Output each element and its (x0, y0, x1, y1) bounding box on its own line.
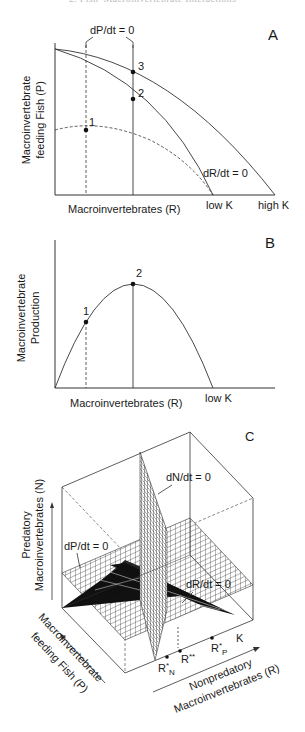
r-double-star-stars: ** (189, 652, 195, 661)
panel-c: C R*N R** R*P (20, 429, 281, 715)
panel-b: B 1 2 Macroinvertebrate Production Macro… (15, 234, 275, 409)
z-axis-arrowhead (50, 502, 54, 508)
figure: A dP/dt = 0 3 2 1 dR/dt = 0 Macroinverte… (0, 0, 305, 732)
r-axis-arrowhead (253, 647, 260, 652)
panel-a-label-3: 3 (138, 60, 144, 72)
r-star-n-point (165, 655, 169, 659)
panel-a-low-k: low K (206, 199, 234, 211)
panel-b-label-2: 2 (136, 267, 142, 279)
c-dpdt-label: dP/dt = 0 (64, 540, 108, 552)
panel-c-letter: C (245, 429, 254, 444)
r-star-p-label: R*P (211, 641, 227, 657)
r-star-p-point (210, 636, 214, 640)
panel-b-production-curve (55, 284, 213, 388)
panel-b-point-1 (84, 320, 89, 325)
c-zlabel-1: Predatory (20, 511, 32, 559)
r-double-star-r: R (181, 653, 189, 665)
panel-a-ylabel-1: Macroinvertebrate (20, 76, 32, 165)
panel-b-letter: B (265, 234, 275, 251)
panel-a-drdt-label: dR/dt = 0 (203, 167, 248, 179)
c-drdt-label: dR/dt = 0 (186, 578, 231, 590)
box-top-back (62, 432, 253, 498)
c-zlabel-2: Macroinvertebrates (N) (33, 479, 45, 591)
panel-b-point-2 (131, 282, 136, 287)
r-double-star-label: R** (181, 652, 195, 665)
panel-a-label-2: 2 (138, 87, 144, 99)
r-star-p-sub: P (222, 648, 227, 657)
panel-a-dpdt-label: dP/dt = 0 (90, 24, 134, 36)
panel-a-dashed-curve (55, 126, 213, 195)
panel-a-ylabel-2: feeding Fish (P) (34, 81, 46, 159)
panel-a-xlabel: Macroinvertebrates (R) (68, 203, 180, 215)
panel-b-ylabel-2: Production (29, 292, 41, 345)
panel-a-point-2 (131, 97, 136, 102)
k-label: K (236, 632, 244, 644)
panel-a: A dP/dt = 0 3 2 1 dR/dt = 0 Macroinverte… (20, 24, 290, 215)
panel-a-point-1 (84, 128, 89, 133)
dndt-label: dN/dt = 0 (166, 471, 211, 483)
panel-a-high-k: high K (258, 199, 290, 211)
r-star-n-sub: N (169, 668, 175, 677)
r-star-p-r: R (211, 642, 219, 654)
dpdt-leader-right (126, 37, 133, 48)
panel-a-letter: A (268, 26, 278, 43)
panel-b-low-k: low K (205, 392, 233, 404)
panel-b-label-1: 1 (83, 305, 89, 317)
dpdt-leader-left (86, 37, 93, 48)
r-star-n-label: R*N (158, 661, 175, 677)
dndt-leader (158, 485, 172, 494)
panel-a-point-3 (131, 70, 136, 75)
panel-a-label-1: 1 (89, 116, 95, 128)
panel-b-ylabel-1: Macroinvertebrate (15, 274, 27, 363)
r-star-n-r: R (158, 662, 166, 674)
panel-b-xlabel: Macroinvertebrates (R) (70, 397, 182, 409)
